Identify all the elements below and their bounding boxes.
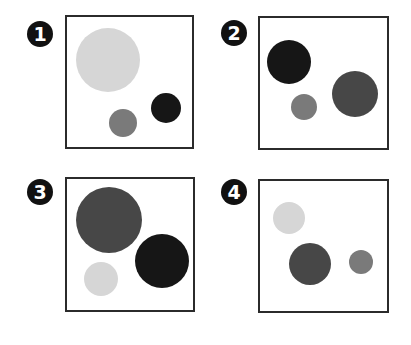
- panel-number-badge: 4: [221, 179, 247, 205]
- panel-number-badge: 1: [27, 21, 53, 47]
- circle-gray: [291, 94, 317, 120]
- circle-light: [273, 202, 305, 234]
- circle-dark-gray: [332, 71, 378, 117]
- circle-dark-gray: [76, 187, 142, 253]
- circle-gray: [109, 109, 137, 137]
- circle-light: [76, 28, 140, 92]
- circle-black: [267, 40, 311, 84]
- circle-dark-gray: [289, 243, 331, 285]
- circle-gray: [349, 250, 373, 274]
- circle-black: [135, 234, 189, 288]
- circle-black: [151, 93, 181, 123]
- circle-light: [84, 262, 118, 296]
- panel-4-frame: [258, 179, 389, 313]
- panel-number-badge: 3: [27, 179, 53, 205]
- panel-number-badge: 2: [221, 20, 247, 46]
